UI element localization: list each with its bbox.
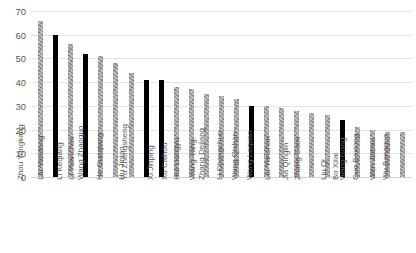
x-label-slot: Bo Xilai [335,179,350,253]
x-tick-label: Wang Qishan [231,132,239,180]
x-label-slot: Hui Liangyu [184,179,199,253]
x-tick-label: Xi Jinping [147,145,155,180]
y-tick-label: 50 [15,54,26,63]
x-label-slot: Wang Lequan [259,179,274,253]
x-tick-label: Liu Qi [320,159,328,180]
x-tick-label: Li Keqiang [55,142,63,180]
bar-slot [395,11,410,177]
x-tick-label: Liu Yandong [37,136,45,180]
bar [400,132,405,177]
x-axis-labels: Zhou YongkangLiu YandongLi KeqiangLi Yua… [31,179,412,253]
bar-chart: 706050403020100 Zhou YongkangLiu Yandong… [0,0,416,253]
bar [309,113,314,177]
x-label-slot: Liu Yandong [48,179,63,253]
x-tick-label: Hui Liangyu [174,138,182,180]
x-label-slot: Hu Jintao [123,179,138,253]
x-label-slot: Wang Zhaoguo [93,179,108,253]
x-label-slot: Li Changchun [229,179,244,253]
x-tick-label: Li Changchun [215,131,223,180]
y-tick-label: 60 [15,30,26,39]
x-tick-label: Li Yuanchao [67,136,75,180]
x-label-slot: Yu Zhengsheng [139,179,154,253]
x-label-slot: Guo Boxiong [365,179,380,253]
x-label-slot: Jia Qinglin [289,179,304,253]
x-tick-label: He Guoqiang [96,133,104,180]
y-tick-label: 40 [15,78,26,87]
x-label-slot: Wu Bangguo [395,179,410,253]
x-tick-label: Xu Caihou [161,143,169,180]
x-tick-label: Zhang Gaoli [294,136,302,180]
x-label-slot: He Guoqiang [108,179,123,253]
x-label-slot: Zhou Yongkang [33,179,48,253]
x-label-slot: Li Yuanchao [78,179,93,253]
x-label-slot: Zhang Gaoli [304,179,319,253]
x-label-slot: Wang Yang [199,179,214,253]
y-tick-label: 30 [15,101,26,110]
x-tick-label: Wu Bangguo [383,134,391,180]
x-label-slot: Xi Jinping [154,179,169,253]
x-tick-label: Guo Boxiong [353,134,361,180]
x-label-slot: Liu Qi [319,179,334,253]
x-label-slot: Li Keqiang [63,179,78,253]
x-label-slot: Wen Jiabao [380,179,395,253]
x-label-slot: Zhang Dejiang [214,179,229,253]
x-tick-label: Liu Yunshan [263,136,271,180]
x-tick-label: Wen Jiabao [370,138,378,180]
y-tick-label: 70 [15,7,26,16]
x-tick-label: Wang Zhaoguo [77,126,85,180]
x-label-slot: Wang Gang [350,179,365,253]
x-tick-label: Wang Gang [339,138,347,180]
x-label-slot: Wang Qishan [244,179,259,253]
x-tick-label: Wang Lequan [245,130,253,180]
x-label-slot: Liu Yunshan [274,179,289,253]
x-tick-label: Wang Yang [190,139,198,180]
bar-slot [304,11,319,177]
x-tick-label: Zhang Dejiang [199,128,207,180]
x-label-slot: Xu Caihou [169,179,184,253]
x-tick-label: Jia Qinglin [282,143,290,180]
x-tick-label: Zhou Yongkang [16,124,24,180]
x-tick-label: Yu Zhengsheng [122,124,130,180]
